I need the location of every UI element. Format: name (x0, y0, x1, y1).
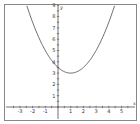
parabola-chart: -3-2-112345123456789 x y (0, 0, 140, 124)
x-tick-label: -2 (30, 108, 35, 114)
x-tick-label: 5 (120, 108, 123, 114)
chart-frame (5, 5, 137, 121)
y-tick-label: 6 (52, 36, 55, 42)
y-tick-label: 2 (52, 81, 55, 87)
x-tick-label: 4 (107, 108, 110, 114)
x-axis-label: x (133, 100, 136, 106)
x-tick-label: 1 (69, 108, 72, 114)
y-axis-label: y (59, 4, 63, 11)
x-tick-label: 3 (95, 108, 98, 114)
y-tick-label: 9 (52, 2, 55, 8)
y-tick-label: 8 (52, 13, 55, 19)
y-tick-label: 7 (52, 25, 55, 31)
x-tick-label: -3 (17, 108, 22, 114)
y-tick-label: 1 (52, 93, 55, 99)
x-tick-label: 2 (82, 108, 85, 114)
y-tick-label: 5 (52, 47, 55, 53)
x-tick-label: -1 (43, 108, 48, 114)
y-tick-label: 3 (52, 70, 55, 76)
